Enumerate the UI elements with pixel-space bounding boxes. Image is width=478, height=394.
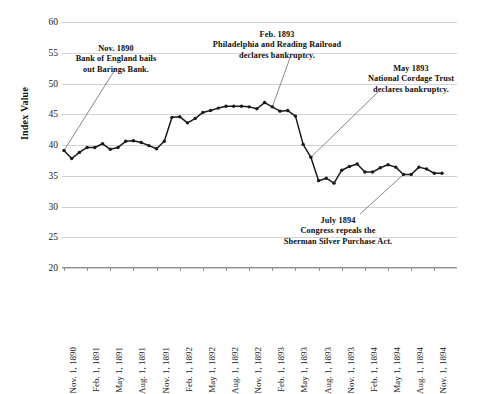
x-axis-tick-mark — [64, 267, 65, 271]
gridline — [62, 145, 457, 146]
y-axis-tick-label: 35 — [10, 171, 58, 181]
x-axis-line — [62, 267, 457, 268]
x-axis-tick-mark — [180, 267, 181, 271]
x-axis-tick-mark — [388, 267, 389, 271]
y-axis-tick-label: 30 — [10, 202, 58, 212]
x-axis-tick-label: Nov. 1, 1893 — [346, 347, 356, 393]
x-axis-tick-mark — [272, 267, 273, 271]
y-axis-tick-label: 55 — [10, 48, 58, 58]
x-axis-tick-label: Nov. 1, 1890 — [68, 347, 78, 393]
y-axis-tick-label: 20 — [10, 263, 58, 273]
x-axis-tick-label: May 1, 1892 — [207, 347, 217, 393]
annotation-line-1: Bank of England bails — [76, 54, 157, 63]
x-axis-tick-label: Feb. 1, 1892 — [184, 347, 194, 392]
annotation-line-1: Congress repeals the — [301, 226, 376, 235]
annotation-line-2: declares bankruptcy. — [239, 51, 315, 60]
annotation-line-1: National Cordage Trust — [368, 74, 454, 83]
x-axis-tick-label: Nov. 1, 1892 — [253, 347, 263, 393]
x-axis-tick-mark — [110, 267, 111, 271]
x-axis-tick-mark — [249, 267, 250, 271]
x-axis-tick-mark — [434, 267, 435, 271]
x-axis-tick-label: Aug. 1, 1894 — [415, 347, 425, 394]
x-axis-ticks: Nov. 1, 1890Feb. 1, 1891May 1, 1891Aug. … — [62, 271, 457, 349]
y-axis-ticks: 605550454035302520 — [0, 22, 58, 268]
x-axis-tick-label: May 1, 1893 — [299, 347, 309, 393]
x-axis-tick-mark — [203, 267, 204, 271]
x-axis-tick-mark — [87, 267, 88, 271]
annotation-line-2: declares bankruptcy. — [373, 85, 449, 94]
annotation-title: Nov. 1890 — [52, 44, 180, 54]
y-axis-tick-label: 60 — [10, 17, 58, 27]
x-axis-tick-label: Aug. 1, 1891 — [137, 347, 147, 394]
x-axis-tick-label: Nov. 1, 1891 — [161, 347, 171, 393]
x-axis-tick-mark — [295, 267, 296, 271]
x-axis-tick-label: Nov. 1, 1894 — [438, 347, 448, 393]
annotation-title: July 1894 — [250, 216, 426, 226]
y-axis-tick-label: 45 — [10, 109, 58, 119]
annotation-title: May 1893 — [348, 64, 474, 74]
gridline — [62, 268, 457, 269]
national-cordage-annotation: May 1893 National Cordage Trust declares… — [348, 64, 474, 95]
x-axis-tick-label: May 1, 1894 — [392, 347, 402, 393]
x-axis-tick-label: Feb. 1, 1894 — [369, 347, 379, 392]
x-axis-tick-mark — [226, 267, 227, 271]
y-axis-tick-label: 25 — [10, 232, 58, 242]
x-axis-tick-label: Feb. 1, 1893 — [276, 347, 286, 392]
gridline — [62, 114, 457, 115]
gridline — [62, 207, 457, 208]
x-axis-tick-label: Feb. 1, 1891 — [91, 347, 101, 392]
philadelphia-reading-annotation: Feb. 1893 Philadelphia and Reading Railr… — [182, 30, 372, 61]
annotation-line-2: out Barings Bank. — [83, 65, 149, 74]
gridline — [62, 176, 457, 177]
y-axis-tick-label: 40 — [10, 140, 58, 150]
barings-annotation: Nov. 1890 Bank of England bails out Bari… — [52, 44, 180, 75]
x-axis-tick-mark — [365, 267, 366, 271]
x-axis-tick-mark — [411, 267, 412, 271]
annotation-title: Feb. 1893 — [182, 30, 372, 40]
x-axis-tick-label: Aug. 1, 1893 — [323, 347, 333, 394]
x-axis-tick-mark — [157, 267, 158, 271]
annotation-line-1: Philadelphia and Reading Railroad — [213, 40, 341, 49]
x-axis-tick-label: May 1, 1891 — [114, 347, 124, 393]
y-axis-tick-label: 50 — [10, 79, 58, 89]
annotation-line-2: Sherman Silver Purchase Act. — [284, 237, 393, 246]
x-axis-tick-mark — [342, 267, 343, 271]
x-axis-tick-mark — [133, 267, 134, 271]
x-axis-tick-mark — [319, 267, 320, 271]
gridline — [62, 22, 457, 23]
sherman-silver-annotation: July 1894 Congress repeals the Sherman S… — [250, 216, 426, 247]
x-axis-tick-label: Aug. 1, 1892 — [230, 347, 240, 394]
